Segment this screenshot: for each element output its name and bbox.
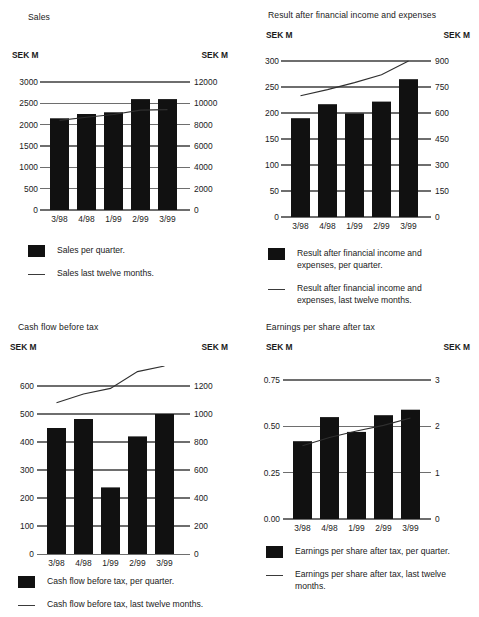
unit-label-left-cashflow: SEK M (10, 342, 37, 352)
unit-label-left-eps: SEK M (266, 342, 293, 352)
xtick-cashflow: 4/98 (75, 558, 91, 568)
trend-line-result (301, 61, 409, 96)
unit-label-right-cashflow: SEK M (201, 342, 228, 352)
ytick-left-result: 0 (249, 213, 279, 221)
legend-label: Result after financial income and expens… (297, 248, 453, 271)
unit-row-result: SEK M SEK M (266, 30, 470, 42)
bar-swatch-icon (266, 546, 283, 558)
bar-swatch-icon (18, 576, 35, 588)
panel-sales: Sales SEK M SEK M (0, 0, 240, 310)
trend-line-cashflow (57, 366, 165, 403)
unit-row-eps: SEK M SEK M (266, 342, 470, 354)
unit-row-cashflow: SEK M SEK M (10, 342, 228, 354)
ytick-right-sales: 10000 (194, 99, 234, 107)
ytick-left-result: 300 (249, 57, 279, 65)
xtick-sales: 2/99 (132, 214, 148, 224)
plot-area-sales: 3000 2500 2000 1500 1000 500 0 12000 100… (0, 70, 240, 230)
legend-cashflow: Cash flow before tax, per quarter. Cash … (18, 576, 238, 617)
chart-svg-cashflow (0, 366, 240, 546)
ytick-left-sales: 3000 (8, 78, 38, 86)
xtick-sales: 1/99 (105, 214, 121, 224)
ytick-right-sales: 12000 (194, 78, 234, 86)
ytick-right-result: 750 (435, 83, 475, 91)
ytick-right-result: 900 (435, 57, 475, 65)
ytick-left-cashflow: 400 (6, 438, 34, 446)
legend-label: Cash flow before tax, last twelve months… (47, 599, 203, 611)
unit-label-left-sales: SEK M (12, 50, 39, 60)
ytick-left-result: 250 (249, 83, 279, 91)
xtick-eps: 4/98 (321, 523, 337, 533)
ytick-right-cashflow: 800 (194, 438, 234, 446)
ytick-left-cashflow: 300 (6, 466, 34, 474)
ytick-left-sales: 500 (8, 184, 38, 192)
legend-item: Cash flow before tax, last twelve months… (18, 599, 238, 611)
ytick-left-result: 200 (249, 109, 279, 117)
panel-title-sales: Sales (28, 12, 50, 22)
ytick-left-eps: 0.00 (246, 515, 280, 523)
xtick-cashflow: 2/99 (129, 558, 145, 568)
xtick-cashflow: 1/99 (102, 558, 118, 568)
ytick-right-result: 600 (435, 109, 475, 117)
ytick-left-result: 150 (249, 135, 279, 143)
ytick-left-sales: 1500 (8, 142, 38, 150)
ytick-right-sales: 6000 (194, 142, 234, 150)
line-swatch-icon (18, 599, 35, 611)
bar-group-sales (50, 99, 177, 210)
ytick-right-cashflow: 1200 (194, 382, 234, 390)
xtick-result: 3/99 (400, 221, 416, 231)
ytick-right-cashflow: 1000 (194, 410, 234, 418)
xtick-result: 4/98 (319, 221, 335, 231)
legend-item: Sales per quarter. (28, 245, 228, 257)
ytick-right-result: 0 (435, 213, 475, 221)
ytick-right-sales: 2000 (194, 184, 234, 192)
xtick-sales: 3/99 (159, 214, 175, 224)
legend-item: Result after financial income and expens… (268, 248, 453, 271)
ytick-right-eps: 3 (435, 376, 465, 384)
xtick-result: 1/99 (346, 221, 362, 231)
plot-area-eps: 0.75 0.50 0.25 0.00 3 2 1 0 3/98 4/98 1/… (240, 366, 479, 556)
ytick-left-eps: 0.50 (246, 422, 280, 430)
ytick-right-eps: 1 (435, 468, 465, 476)
legend-label: Cash flow before tax, per quarter. (47, 576, 174, 588)
legend-label: Sales per quarter. (57, 245, 125, 257)
xtick-result: 2/99 (373, 221, 389, 231)
panel-cashflow: Cash flow before tax SEK M SEK M (0, 310, 240, 617)
legend-item: Cash flow before tax, per quarter. (18, 576, 238, 588)
ytick-right-result: 150 (435, 187, 475, 195)
ytick-right-sales: 4000 (194, 163, 234, 171)
ytick-left-eps: 0.25 (246, 468, 280, 476)
legend-item: Earnings per share after tax, per quarte… (266, 546, 466, 558)
unit-label-right-eps: SEK M (443, 342, 470, 352)
line-swatch-icon (28, 268, 45, 280)
ytick-right-eps: 0 (435, 515, 465, 523)
legend-item: Result after financial income and expens… (268, 283, 453, 306)
unit-label-right-sales: SEK M (201, 50, 228, 60)
ytick-left-cashflow: 600 (6, 382, 34, 390)
xtick-eps: 3/98 (294, 523, 310, 533)
xtick-sales: 3/98 (51, 214, 67, 224)
ytick-left-cashflow: 200 (6, 494, 34, 502)
legend-label: Result after financial income and expens… (297, 283, 453, 306)
bar-swatch-icon (28, 245, 45, 257)
ytick-right-result: 450 (435, 135, 475, 143)
xtick-eps: 1/99 (348, 523, 364, 533)
legend-sales: Sales per quarter. Sales last twelve mon… (28, 245, 228, 287)
ytick-left-result: 50 (249, 187, 279, 195)
legend-label: Earnings per share after tax, per quarte… (295, 546, 450, 558)
panel-title-eps: Earnings per share after tax (266, 322, 375, 332)
plot-area-result: 300 250 200 150 100 50 0 900 750 600 450… (240, 50, 479, 235)
ytick-left-cashflow: 500 (6, 410, 34, 418)
xtick-eps: 2/99 (375, 523, 391, 533)
legend-item: Earnings per share after tax, last twelv… (266, 569, 466, 592)
panel-eps: Earnings per share after tax SEK M SEK M (240, 310, 479, 617)
cashflow-bar-extend (0, 526, 240, 555)
panel-title-result: Result after financial income and expens… (268, 10, 436, 20)
xtick-eps: 3/99 (402, 523, 418, 533)
ytick-right-result: 300 (435, 161, 475, 169)
ytick-left-eps: 0.75 (246, 376, 280, 384)
ytick-left-result: 100 (249, 161, 279, 169)
ytick-right-cashflow: 600 (194, 466, 234, 474)
xtick-cashflow: 3/99 (156, 558, 172, 568)
legend-item: Sales last twelve months. (28, 268, 228, 280)
unit-label-left-result: SEK M (266, 30, 293, 40)
